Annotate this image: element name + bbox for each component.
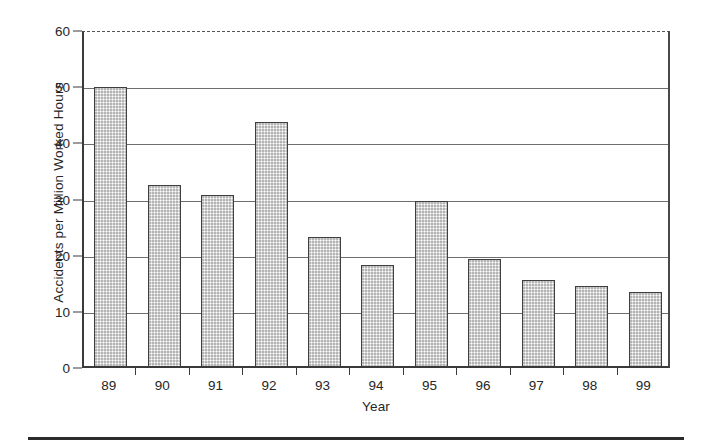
x-tick-mark [349, 368, 350, 375]
bar-slot [244, 32, 297, 366]
x-tick-label-96: 96 [456, 378, 510, 393]
bar [361, 265, 394, 366]
x-tick-label-90: 90 [135, 378, 189, 393]
bar [201, 195, 234, 366]
page-divider-rule [28, 437, 684, 440]
bar-chart-figure: Accidents per Million Worked Hours 01020… [0, 0, 702, 446]
y-tick-mark-50 [73, 87, 82, 88]
y-tick-label-20: 20 [24, 248, 70, 263]
x-tick-label-97: 97 [509, 378, 563, 393]
y-tick-mark-10 [73, 311, 82, 312]
y-tick-label-10: 10 [24, 304, 70, 319]
x-tick-label-93: 93 [296, 378, 350, 393]
bar-slot [191, 32, 244, 366]
x-axis-title: Year [82, 399, 670, 414]
x-tick-mark [456, 368, 457, 375]
bar [629, 292, 662, 366]
bar-slot [405, 32, 458, 366]
bar [255, 122, 288, 366]
plot-area [82, 31, 670, 368]
bar-slot [298, 32, 351, 366]
y-tick-label-50: 50 [24, 80, 70, 95]
x-tick-mark [135, 368, 136, 375]
bar [94, 87, 127, 366]
x-tick-label-89: 89 [82, 378, 136, 393]
bar [308, 237, 341, 366]
x-tick-label-94: 94 [349, 378, 403, 393]
y-tick-mark-20 [73, 255, 82, 256]
y-tick-label-40: 40 [24, 136, 70, 151]
x-tick-mark [296, 368, 297, 375]
x-tick-label-98: 98 [563, 378, 617, 393]
x-tick-label-91: 91 [189, 378, 243, 393]
y-tick-mark-30 [73, 199, 82, 200]
bar [575, 286, 608, 366]
x-tick-mark [403, 368, 404, 375]
bar-slot [137, 32, 190, 366]
bar-slot [619, 32, 672, 366]
x-tick-label-95: 95 [402, 378, 456, 393]
x-tick-mark [189, 368, 190, 375]
bar-slot [565, 32, 618, 366]
x-tick-label-92: 92 [242, 378, 296, 393]
bar [148, 185, 181, 366]
y-tick-label-30: 30 [24, 192, 70, 207]
bar-slot [351, 32, 404, 366]
x-tick-mark [510, 368, 511, 375]
bar-slot [512, 32, 565, 366]
y-tick-label-60: 60 [24, 24, 70, 39]
x-tick-label-99: 99 [616, 378, 670, 393]
x-tick-mark [242, 368, 243, 375]
bar-slot [458, 32, 511, 366]
bar [522, 280, 555, 366]
y-tick-mark-0 [73, 368, 82, 369]
bar [468, 259, 501, 366]
y-tick-label-0: 0 [24, 361, 70, 376]
bar [415, 201, 448, 366]
y-tick-mark-40 [73, 143, 82, 144]
y-tick-mark-60 [73, 31, 82, 32]
x-tick-mark [617, 368, 618, 375]
bar-slot [84, 32, 137, 366]
x-tick-mark [563, 368, 564, 375]
